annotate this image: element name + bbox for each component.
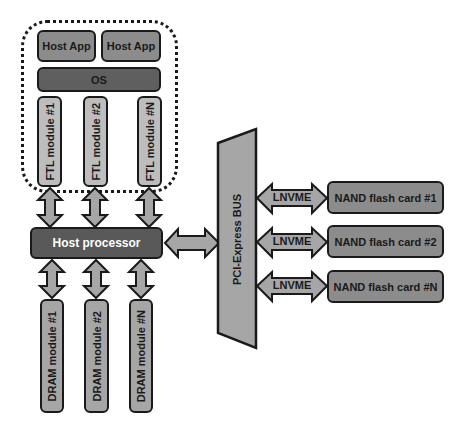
- double-arrow-icon: [38, 188, 161, 227]
- dram-module-label: DRAM module #N: [135, 310, 147, 402]
- lnvme-link-label-1: LNVME: [267, 191, 317, 203]
- nand-flash-card-2: NAND flash card #2: [327, 225, 444, 258]
- dram-module-label: DRAM module #1: [46, 311, 58, 401]
- nand-flash-card-1: NAND flash card #1: [327, 181, 444, 214]
- lnvme-label: LNVME: [273, 235, 312, 247]
- lnvme-label: LNVME: [273, 279, 312, 291]
- dram-module-box-n: DRAM module #N: [129, 299, 153, 413]
- bus-label: PCI-Express BUS: [231, 194, 243, 285]
- dram-module-label: DRAM module #2: [91, 311, 103, 401]
- lnvme-label: LNVME: [273, 191, 312, 203]
- double-arrow-icon: [40, 260, 153, 298]
- lnvme-link-label-n: LNVME: [267, 279, 317, 291]
- nand-card-label: NAND flash card #1: [334, 192, 436, 204]
- dram-module-box-2: DRAM module #2: [84, 299, 109, 413]
- pci-express-bus: PCI-Express BUS: [212, 140, 262, 340]
- double-arrow-icon: [165, 229, 219, 257]
- host-processor-label: Host processor: [52, 236, 140, 250]
- nand-flash-card-n: NAND flash card #N: [327, 270, 444, 303]
- dram-module-box-1: DRAM module #1: [40, 299, 64, 413]
- host-processor-box: Host processor: [30, 227, 163, 259]
- lnvme-link-label-2: LNVME: [267, 235, 317, 247]
- nand-card-label: NAND flash card #2: [334, 236, 436, 248]
- nand-card-label: NAND flash card #N: [334, 281, 438, 293]
